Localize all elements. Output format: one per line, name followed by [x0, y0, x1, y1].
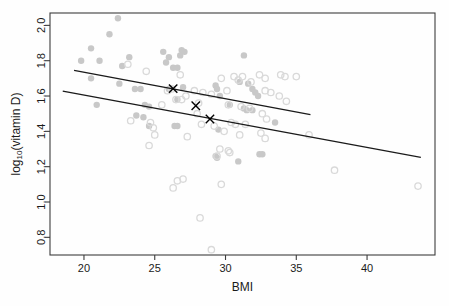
data-point	[88, 75, 94, 81]
data-point	[170, 185, 176, 191]
y-axis-tick-label: 1.0	[35, 194, 47, 209]
data-point	[180, 176, 186, 182]
y-axis-tick-label: 0.8	[35, 230, 47, 245]
data-point	[415, 183, 421, 189]
data-point	[236, 132, 242, 138]
x-axis-tick-label: 40	[361, 262, 373, 274]
y-axis-tick-label: 1.8	[35, 53, 47, 68]
data-point	[127, 118, 133, 124]
data-point	[217, 146, 223, 152]
data-point	[235, 158, 241, 164]
data-point	[218, 181, 224, 187]
data-point	[211, 123, 217, 129]
data-point	[283, 98, 289, 104]
data-point	[133, 112, 139, 118]
data-point	[231, 73, 237, 79]
data-point	[132, 86, 138, 92]
data-point	[268, 89, 274, 95]
data-point	[249, 86, 255, 92]
data-point	[241, 52, 247, 58]
data-point	[146, 142, 152, 148]
data-point	[263, 116, 269, 122]
data-point	[293, 73, 299, 79]
data-point	[183, 93, 189, 99]
series-open-group	[125, 61, 422, 253]
x-axis-tick-label: 25	[149, 262, 161, 274]
data-point	[197, 215, 203, 221]
data-point	[94, 102, 100, 108]
data-point	[214, 86, 220, 92]
data-point	[272, 119, 278, 125]
data-point	[177, 72, 183, 78]
x-axis-tick-label: 30	[219, 262, 231, 274]
data-point	[137, 86, 143, 92]
data-point	[208, 247, 214, 253]
data-point	[239, 73, 245, 79]
data-point	[115, 15, 121, 21]
data-point	[96, 57, 102, 63]
data-point	[152, 132, 158, 138]
data-point	[177, 52, 183, 58]
y-axis-tick-label: 1.6	[35, 88, 47, 103]
data-point	[184, 133, 190, 139]
data-point	[262, 135, 268, 141]
data-point	[174, 65, 180, 71]
data-point	[331, 167, 337, 173]
data-point	[163, 59, 169, 65]
upper-fit-line	[74, 70, 310, 114]
data-point	[140, 114, 146, 120]
data-point	[160, 49, 166, 55]
figure-canvas: 0.81.01.21.41.61.82.02025303540BMIlog10(…	[0, 0, 449, 306]
x-axis-title: BMI	[232, 280, 253, 294]
data-point	[159, 102, 165, 108]
data-layer	[63, 15, 421, 253]
data-point	[276, 93, 282, 99]
x-axis-tick-label: 35	[290, 262, 302, 274]
data-point	[218, 75, 224, 81]
data-point	[255, 93, 261, 99]
y-axis-tick-label: 1.2	[35, 159, 47, 174]
data-point	[174, 123, 180, 129]
data-point	[221, 128, 227, 134]
data-point	[116, 80, 122, 86]
data-point	[259, 151, 265, 157]
y-axis-tick-label: 1.4	[35, 124, 47, 139]
data-point	[88, 45, 94, 51]
data-point	[224, 88, 230, 94]
data-point	[227, 149, 233, 155]
data-point	[262, 75, 268, 81]
x-axis-tick-label: 20	[78, 262, 90, 274]
data-point	[126, 54, 132, 60]
scatter-plot: 0.81.01.21.41.61.82.02025303540BMIlog10(…	[0, 0, 449, 306]
data-point	[143, 68, 149, 74]
data-point	[180, 84, 186, 90]
y-axis-tick-label: 2.0	[35, 18, 47, 33]
data-point	[106, 31, 112, 37]
data-point	[198, 121, 204, 127]
data-point	[78, 57, 84, 63]
y-axis-title: log10(vitamin D)	[9, 93, 24, 176]
y-axis-title-text: log10(vitamin D)	[9, 93, 24, 176]
lower-fit-line	[63, 91, 421, 157]
data-point	[125, 61, 131, 67]
